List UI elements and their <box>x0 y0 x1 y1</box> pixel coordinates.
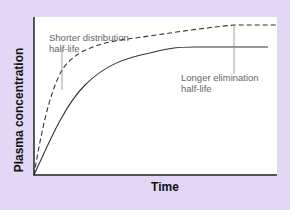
annotation-longer-elimination: Longer elimination half-life <box>181 72 259 94</box>
chart-svg <box>0 0 295 217</box>
annotation-right-line1: Longer elimination <box>181 72 259 83</box>
annotation-left-line2: half-life <box>49 43 129 54</box>
y-axis-label: Plasma concentration <box>12 48 26 173</box>
annotation-right-line2: half-life <box>181 83 259 94</box>
solid-curve <box>34 47 268 175</box>
annotation-left-line1: Shorter distribution <box>49 32 129 43</box>
x-axis-label: Time <box>151 180 179 194</box>
annotation-shorter-distribution: Shorter distribution half-life <box>49 32 129 54</box>
